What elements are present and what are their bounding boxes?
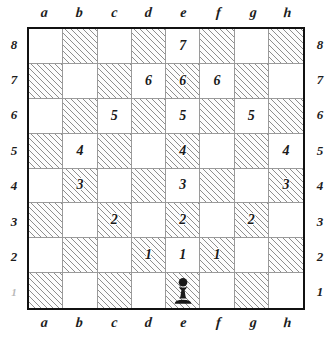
board-square-c6[interactable]: 5 bbox=[98, 99, 132, 134]
board-square-h3[interactable] bbox=[269, 203, 303, 238]
board-square-a6[interactable] bbox=[29, 99, 63, 134]
board-square-g2[interactable] bbox=[235, 238, 269, 273]
board-square-d7[interactable]: 6 bbox=[132, 64, 166, 99]
board-square-b3[interactable] bbox=[63, 203, 97, 238]
square-value-d7: 6 bbox=[145, 74, 152, 88]
board-square-h4[interactable]: 3 bbox=[269, 169, 303, 204]
board-square-g4[interactable] bbox=[235, 169, 269, 204]
board-square-f2[interactable]: 1 bbox=[200, 238, 234, 273]
board-square-c5[interactable] bbox=[98, 134, 132, 169]
board-square-e7[interactable]: 6 bbox=[166, 64, 200, 99]
rank-label-right-8: 8 bbox=[308, 27, 332, 62]
board-square-f3[interactable] bbox=[200, 203, 234, 238]
board-square-e5[interactable]: 4 bbox=[166, 134, 200, 169]
board-square-g3[interactable]: 2 bbox=[235, 203, 269, 238]
board-square-h7[interactable] bbox=[269, 64, 303, 99]
square-value-e8: 7 bbox=[179, 39, 186, 53]
square-value-h4: 3 bbox=[282, 178, 289, 192]
square-value-b4: 3 bbox=[76, 178, 83, 192]
board-square-c8[interactable] bbox=[98, 29, 132, 64]
file-label-top-a: a bbox=[26, 1, 62, 24]
board-square-h8[interactable] bbox=[269, 29, 303, 64]
board-square-f6[interactable] bbox=[200, 99, 234, 134]
board-square-h5[interactable]: 4 bbox=[269, 134, 303, 169]
chess-board-grid: 7666555444333222111 bbox=[29, 29, 303, 308]
board-square-g5[interactable] bbox=[235, 134, 269, 169]
file-label-top-d: d bbox=[130, 1, 166, 24]
board-square-e6[interactable]: 5 bbox=[166, 99, 200, 134]
file-labels-top: abcdefgh bbox=[27, 2, 305, 24]
board-square-g7[interactable] bbox=[235, 64, 269, 99]
board-square-d2[interactable]: 1 bbox=[132, 238, 166, 273]
rank-label-left-8: 8 bbox=[2, 27, 26, 62]
board-square-b7[interactable] bbox=[63, 64, 97, 99]
board-square-d4[interactable] bbox=[132, 169, 166, 204]
rank-label-right-5: 5 bbox=[308, 133, 332, 168]
board-square-b1[interactable] bbox=[63, 273, 97, 308]
square-value-c6: 5 bbox=[111, 109, 118, 123]
board-square-d6[interactable] bbox=[132, 99, 166, 134]
square-value-h5: 4 bbox=[282, 144, 289, 158]
board-square-e1[interactable] bbox=[166, 273, 200, 308]
board-square-b5[interactable]: 4 bbox=[63, 134, 97, 169]
board-square-a3[interactable] bbox=[29, 203, 63, 238]
board-square-c3[interactable]: 2 bbox=[98, 203, 132, 238]
file-label-bottom-g: g bbox=[235, 311, 271, 334]
square-value-e7: 6 bbox=[179, 74, 186, 88]
square-value-f7: 6 bbox=[213, 74, 220, 88]
rank-label-right-7: 7 bbox=[308, 62, 332, 97]
square-value-e3: 2 bbox=[179, 213, 186, 227]
board-square-f4[interactable] bbox=[200, 169, 234, 204]
rank-labels-right: 87654321 bbox=[308, 27, 332, 310]
rank-label-right-1: 1 bbox=[308, 275, 332, 310]
rank-label-right-3: 3 bbox=[308, 204, 332, 239]
square-value-c3: 2 bbox=[111, 213, 118, 227]
board-square-f1[interactable] bbox=[200, 273, 234, 308]
board-square-b4[interactable]: 3 bbox=[63, 169, 97, 204]
board-square-c1[interactable] bbox=[98, 273, 132, 308]
rank-label-right-4: 4 bbox=[308, 169, 332, 204]
file-label-top-e: e bbox=[165, 1, 201, 24]
board-square-e8[interactable]: 7 bbox=[166, 29, 200, 64]
board-square-a7[interactable] bbox=[29, 64, 63, 99]
square-value-b5: 4 bbox=[76, 144, 83, 158]
board-square-h6[interactable] bbox=[269, 99, 303, 134]
square-value-e5: 4 bbox=[179, 144, 186, 158]
file-label-bottom-c: c bbox=[96, 311, 132, 334]
file-label-bottom-f: f bbox=[200, 311, 236, 334]
board-square-g1[interactable] bbox=[235, 273, 269, 308]
board-square-c4[interactable] bbox=[98, 169, 132, 204]
chess-board: 7666555444333222111 bbox=[27, 27, 305, 310]
board-square-b6[interactable] bbox=[63, 99, 97, 134]
rank-label-right-2: 2 bbox=[308, 239, 332, 274]
square-value-e6: 5 bbox=[179, 109, 186, 123]
board-square-h1[interactable] bbox=[269, 273, 303, 308]
file-label-top-c: c bbox=[96, 1, 132, 24]
board-square-e2[interactable]: 1 bbox=[166, 238, 200, 273]
board-square-a5[interactable] bbox=[29, 134, 63, 169]
board-square-g6[interactable]: 5 bbox=[235, 99, 269, 134]
board-square-f7[interactable]: 6 bbox=[200, 64, 234, 99]
board-square-d3[interactable] bbox=[132, 203, 166, 238]
board-square-c2[interactable] bbox=[98, 238, 132, 273]
board-square-a4[interactable] bbox=[29, 169, 63, 204]
board-square-b2[interactable] bbox=[63, 238, 97, 273]
board-square-e3[interactable]: 2 bbox=[166, 203, 200, 238]
board-square-e4[interactable]: 3 bbox=[166, 169, 200, 204]
file-label-bottom-b: b bbox=[61, 311, 97, 334]
square-value-e2: 1 bbox=[179, 248, 186, 262]
board-square-f8[interactable] bbox=[200, 29, 234, 64]
board-square-d8[interactable] bbox=[132, 29, 166, 64]
board-square-a8[interactable] bbox=[29, 29, 63, 64]
board-square-b8[interactable] bbox=[63, 29, 97, 64]
board-square-a2[interactable] bbox=[29, 238, 63, 273]
board-square-d5[interactable] bbox=[132, 134, 166, 169]
board-square-d1[interactable] bbox=[132, 273, 166, 308]
board-square-g8[interactable] bbox=[235, 29, 269, 64]
rank-label-left-5: 5 bbox=[2, 133, 26, 168]
board-square-f5[interactable] bbox=[200, 134, 234, 169]
board-square-a1[interactable] bbox=[29, 273, 63, 308]
square-value-g6: 5 bbox=[248, 109, 255, 123]
board-square-h2[interactable] bbox=[269, 238, 303, 273]
board-square-c7[interactable] bbox=[98, 64, 132, 99]
